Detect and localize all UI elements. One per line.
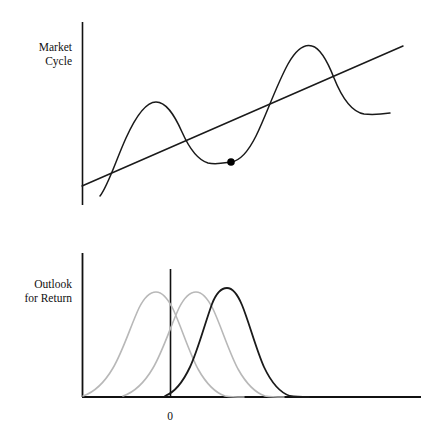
- market-cycle-label-line1: Market: [39, 41, 72, 53]
- outlook-distribution-middle-gray: [123, 292, 284, 397]
- market-cycle-position-marker: [227, 158, 235, 166]
- market-cycle-label-line2: Cycle: [45, 55, 72, 67]
- market-cycle-axis-label: MarketCycle: [0, 40, 72, 68]
- market-cycle-panel: [82, 22, 403, 205]
- market-cycle-wave: [100, 46, 390, 196]
- market-cycle-trend-line: [82, 46, 403, 186]
- outlook-for-return-axis-label: Outlookfor Return: [0, 277, 72, 305]
- outlook-for-return-panel: [82, 253, 421, 398]
- outlook-label-line1: Outlook: [34, 278, 72, 290]
- outlook-label-line2: for Return: [24, 292, 72, 304]
- outlook-zero-tick-label: 0: [155, 410, 185, 422]
